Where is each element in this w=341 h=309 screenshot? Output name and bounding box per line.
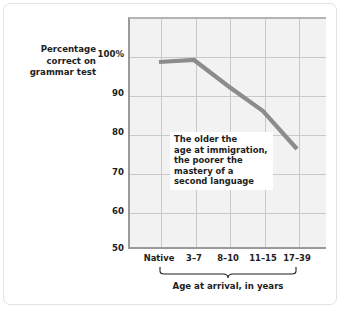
annotation-line-1: The older the [174, 134, 268, 145]
annotation-line-3: the poorer the [174, 155, 268, 166]
x-axis-title: Age at arrival, in years [159, 281, 297, 291]
y-axis-title-line-2: correct on [12, 56, 96, 68]
annotation-line-4: mastery of a [174, 166, 268, 177]
annotation-line-5: second language [174, 176, 268, 187]
y-tick-label-60: 60 [96, 206, 124, 216]
y-tick-label-90: 90 [96, 88, 124, 98]
x-tick-label-native: Native [144, 253, 175, 263]
y-axis-title-line-1: Percentage [12, 44, 96, 56]
y-tick-label-50: 50 [96, 243, 124, 253]
y-tick-label-80: 80 [96, 127, 124, 137]
y-axis-title-line-3: grammar test [12, 67, 96, 79]
x-tick-label-17-39: 17–39 [283, 253, 311, 263]
x-tick-label-3-7: 3–7 [186, 253, 202, 263]
y-tick-label-70: 70 [96, 167, 124, 177]
x-tick-label-8-10: 8–10 [217, 253, 239, 263]
y-axis-title: Percentage correct on grammar test [12, 44, 96, 79]
chart-card: Percentage correct on grammar test 100% … [3, 3, 337, 305]
y-tick-label-100: 100% [96, 49, 124, 59]
annotation-textbox: The older the age at immigration, the po… [170, 132, 273, 190]
annotation-line-2: age at immigration, [174, 145, 268, 156]
x-tick-label-11-15: 11–15 [249, 253, 277, 263]
x-axis-brace-icon [159, 266, 297, 279]
